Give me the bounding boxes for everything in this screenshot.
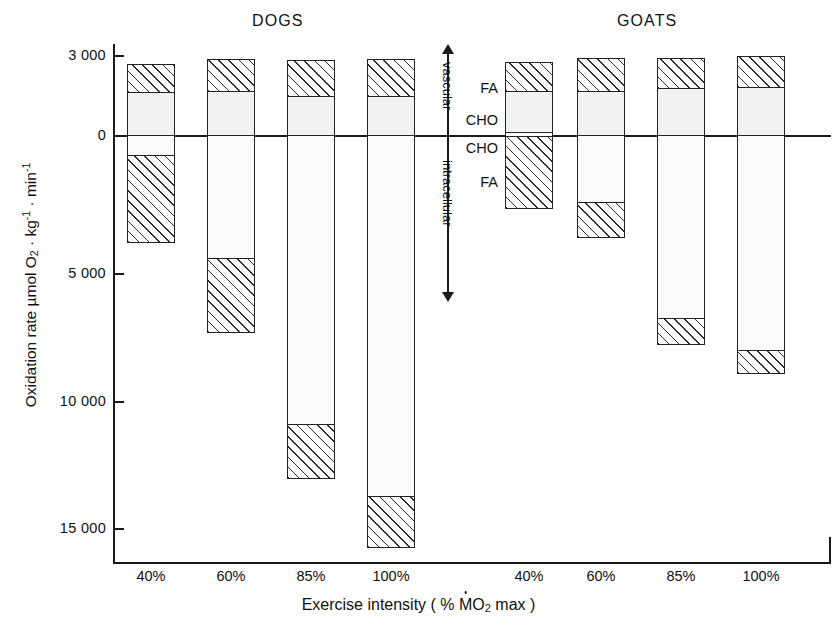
bar-dogs-40 [127,64,175,243]
arrow-down-icon [442,292,454,302]
segment-vascular-fa [127,64,175,92]
y-tick-label-5000: 5 000 [68,265,106,281]
y-axis-title-sup2: -1 [20,163,32,172]
y-tick-mark-5000 [113,273,124,275]
y-axis-title: Oxidation rate µmol O2 · kg-1 · min-1 [20,115,40,455]
x-axis-line [113,562,831,564]
legend-label-vascular-cho: CHO [420,112,498,128]
y-axis-title-sub1: 2 [28,250,40,256]
segment-intracellular-cho [127,135,175,155]
x-tick-label-dogs-85: 85% [287,568,335,584]
segment-vascular-cho [367,96,415,135]
bar-dogs-60 [207,59,255,333]
legend-direction-intracellular: intracellular [440,160,455,226]
segment-vascular-cho [505,91,553,132]
segment-intracellular-cho [207,135,255,258]
bar-goats-100 [737,56,785,374]
segment-vascular-cho [657,88,705,135]
segment-vascular-fa [657,58,705,88]
y-tick-label-0: 0 [98,127,106,143]
segment-vascular-fa [577,58,625,91]
y-tick-mark-3000 [113,55,124,57]
x-axis-left-cap [113,537,115,563]
segment-intracellular-fa [127,155,175,243]
segment-intracellular-fa [505,136,553,209]
segment-intracellular-fa [287,424,335,479]
x-tick-label-dogs-40: 40% [127,568,175,584]
bar-dogs-85 [287,60,335,479]
x-axis-title: Exercise intensity ( % MO2 max ) [0,596,837,614]
segment-vascular-fa [287,60,335,96]
bar-goats-60 [577,58,625,238]
x-tick-label-goats-100: 100% [735,568,787,584]
bar-goats-85 [657,58,705,345]
bar-goats-40 [505,62,553,209]
legend-label-vascular-fa: FA [420,80,498,96]
y-axis-title-pre: Oxidation rate µmol O [22,256,39,407]
segment-intracellular-fa [737,350,785,374]
segment-vascular-cho [737,87,785,135]
chart-canvas: 3 000 0 5 000 10 000 15 000 Oxidation ra… [0,0,837,625]
y-tick-mark-0 [113,135,124,137]
segment-vascular-fa [505,62,553,91]
segment-intracellular-cho [367,135,415,496]
segment-intracellular-cho [737,135,785,350]
segment-intracellular-cho [577,135,625,202]
arrow-up-icon [442,44,454,54]
segment-vascular-fa [367,59,415,96]
segment-intracellular-fa [577,202,625,238]
segment-vascular-cho [577,91,625,135]
x-axis-title-pre: Exercise intensity ( % [302,596,459,613]
segment-intracellular-fa [207,258,255,333]
legend-label-intracellular-cho: CHO [420,140,498,156]
segment-vascular-cho [127,92,175,135]
x-axis-right-cap [829,537,831,563]
y-axis-title-mid: · kg [22,220,39,250]
segment-intracellular-cho [657,135,705,318]
y-tick-label-15000: 15 000 [60,520,106,536]
bar-dogs-100 [367,59,415,548]
segment-vascular-fa [737,56,785,87]
legend-label-intracellular-fa: FA [420,174,498,190]
y-tick-mark-15000 [113,528,124,530]
segment-intracellular-fa [657,318,705,345]
y-tick-label-10000: 10 000 [60,393,106,409]
y-axis-title-mid2: · min [22,172,39,211]
segment-vascular-fa [207,59,255,91]
x-axis-title-o: O [472,596,484,613]
m-dot-accent: M [459,596,472,614]
y-axis-title-sup1: -1 [20,211,32,220]
x-tick-label-goats-40: 40% [505,568,553,584]
y-tick-label-3000: 3 000 [68,47,106,63]
x-axis-title-m: M [459,596,472,613]
x-tick-label-dogs-60: 60% [207,568,255,584]
segment-vascular-cho [207,91,255,135]
segment-intracellular-fa [367,496,415,548]
y-axis-line [113,44,115,563]
y-tick-mark-10000 [113,401,124,403]
x-axis-title-post: max ) [491,596,535,613]
group-heading-dogs: DOGS [252,12,304,30]
x-tick-label-goats-85: 85% [657,568,705,584]
segment-vascular-cho [287,96,335,135]
segment-intracellular-cho [287,135,335,424]
x-tick-label-goats-60: 60% [577,568,625,584]
x-tick-label-dogs-100: 100% [365,568,417,584]
group-heading-goats: GOATS [617,12,677,30]
